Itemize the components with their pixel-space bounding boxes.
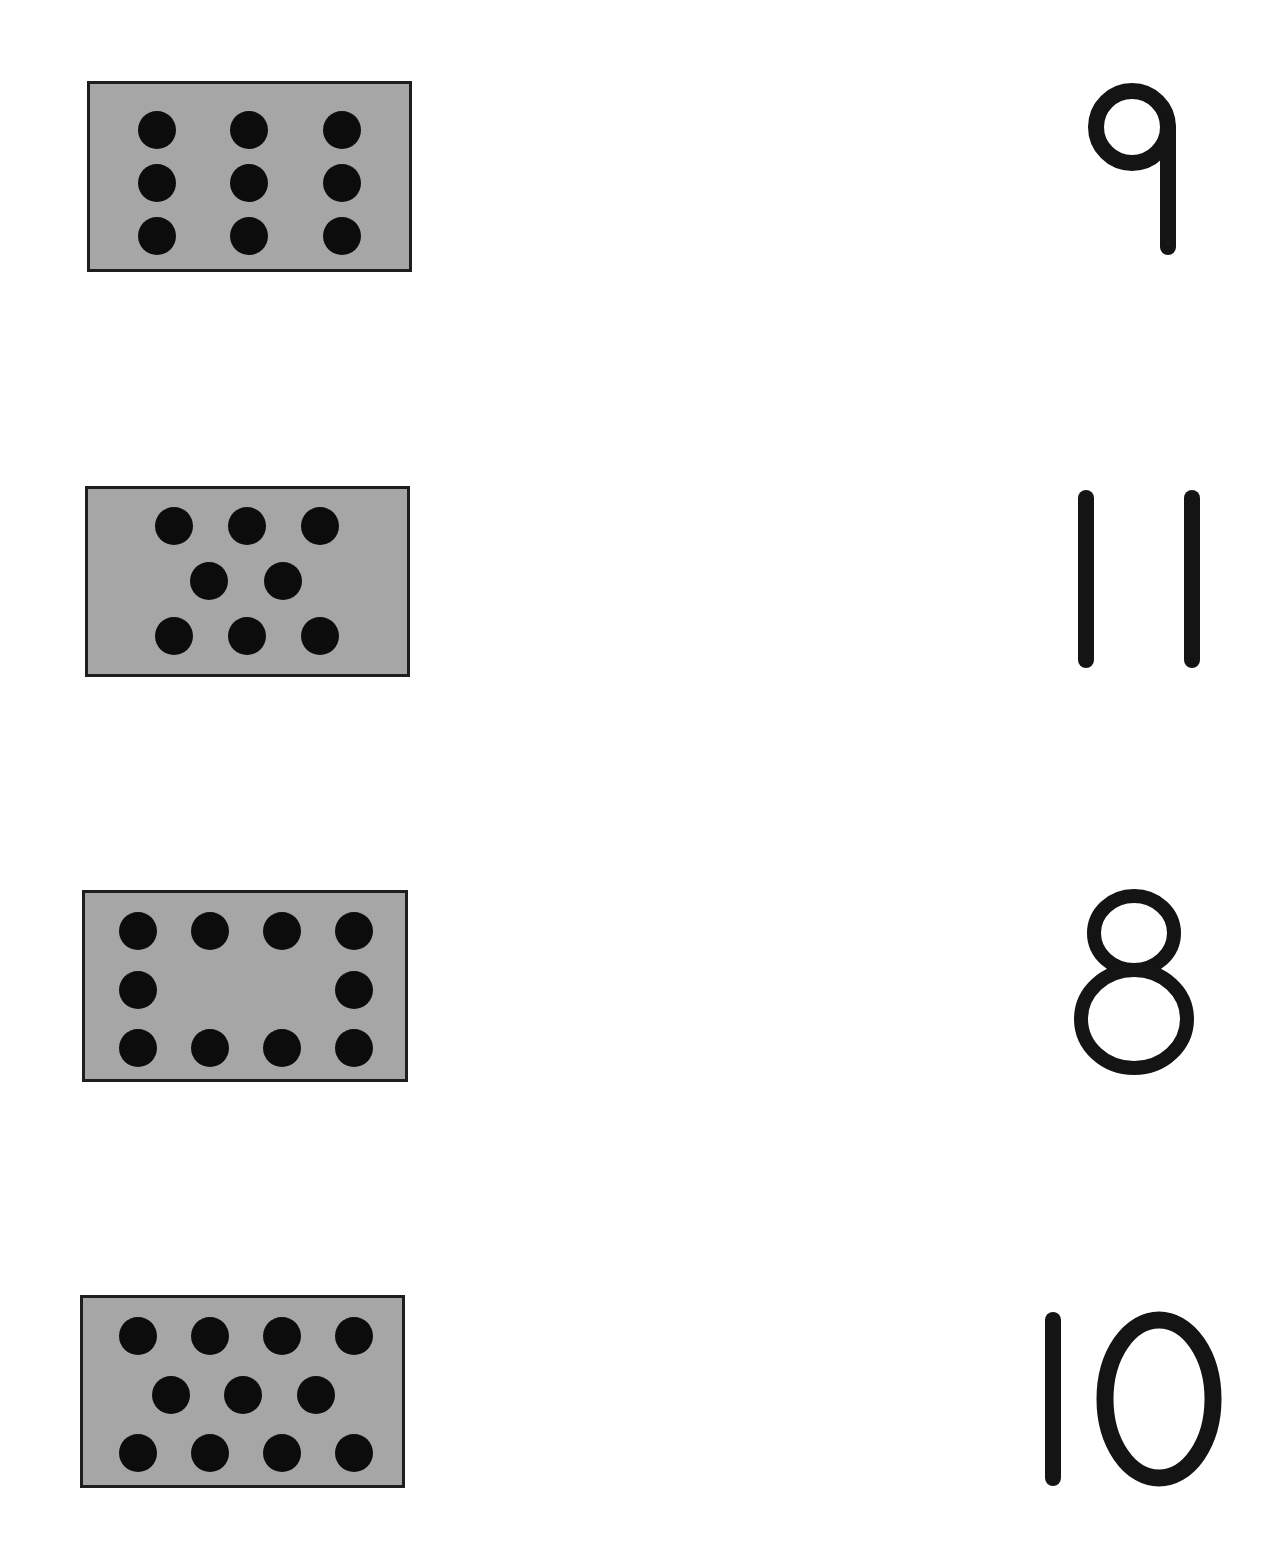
dot <box>263 912 301 950</box>
dot-card-2: 8 <box>85 486 410 677</box>
dot <box>155 617 193 655</box>
dot <box>190 562 228 600</box>
dot <box>224 1376 262 1414</box>
dot <box>263 1434 301 1472</box>
dot <box>191 1317 229 1355</box>
dot-card-3: 10 <box>82 890 408 1082</box>
dot-count: 9 <box>90 84 91 85</box>
dot <box>119 1317 157 1355</box>
dot <box>230 111 268 149</box>
dot <box>301 507 339 545</box>
dot <box>119 1434 157 1472</box>
dot <box>119 1029 157 1067</box>
dot <box>335 1317 373 1355</box>
dot <box>191 1434 229 1472</box>
dot <box>228 617 266 655</box>
dot <box>230 217 268 255</box>
dot <box>152 1376 190 1414</box>
dot-card-4: 11 <box>80 1295 405 1488</box>
dot <box>263 1317 301 1355</box>
numeral-9: 9 <box>1085 85 1195 260</box>
numeral-10: 10 <box>1035 1302 1235 1492</box>
dot <box>138 111 176 149</box>
dot <box>138 164 176 202</box>
dot <box>264 562 302 600</box>
dot <box>191 1029 229 1067</box>
dot-count: 10 <box>85 893 86 894</box>
dot <box>119 912 157 950</box>
dot <box>230 164 268 202</box>
dot <box>228 507 266 545</box>
dot <box>335 912 373 950</box>
dot <box>297 1376 335 1414</box>
dot <box>335 1434 373 1472</box>
dot <box>323 111 361 149</box>
dot-count: 11 <box>83 1298 84 1299</box>
numeral-text: 10 <box>1035 1492 1036 1493</box>
dot <box>301 617 339 655</box>
dot <box>323 164 361 202</box>
dot-count: 8 <box>88 489 89 490</box>
dot <box>191 912 229 950</box>
numeral-8: 8 <box>1072 888 1197 1078</box>
dot <box>155 507 193 545</box>
numeral-text: 9 <box>1085 260 1086 261</box>
numeral-text: 8 <box>1072 1078 1073 1079</box>
dot <box>263 1029 301 1067</box>
dot-card-1: 9 <box>87 81 412 272</box>
dot <box>335 971 373 1009</box>
dot <box>138 217 176 255</box>
dot <box>335 1029 373 1067</box>
dot <box>323 217 361 255</box>
numeral-11: 11 <box>1070 488 1210 673</box>
numeral-text: 11 <box>1070 673 1071 674</box>
dot <box>119 971 157 1009</box>
